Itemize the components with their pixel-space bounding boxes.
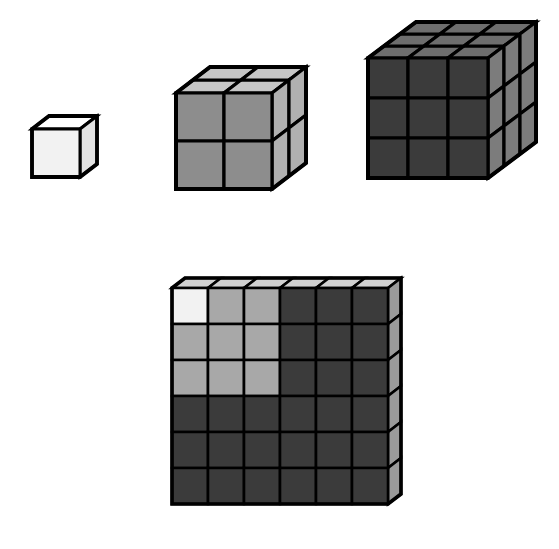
slab-front-cell-3-3: [280, 396, 316, 432]
slab-front-cell-4-3: [280, 432, 316, 468]
cube-3x3x3: [368, 22, 536, 178]
cube-3x3x3-front-cell-0-2: [448, 58, 488, 98]
slab-front-cell-2-0: [172, 360, 208, 396]
slab-front-cell-3-2: [244, 396, 280, 432]
cube-2x2x2-front-cell-1-1: [224, 141, 272, 189]
slab-front-cell-5-5: [352, 468, 388, 504]
slab-front-cell-0-2: [244, 288, 280, 324]
slab-front-cell-4-0: [172, 432, 208, 468]
slab-front-cell-4-4: [316, 432, 352, 468]
cube-1x1x1-front-cell-0-0: [32, 129, 80, 177]
slab-6x6: [172, 278, 401, 504]
cube-3x3x3-front-cell-1-0: [368, 98, 408, 138]
slab-front-cell-2-1: [208, 360, 244, 396]
slab-front-cell-0-0: [172, 288, 208, 324]
sum-of-cubes-figure: [0, 0, 559, 549]
cube-1x1x1: [32, 116, 97, 177]
slab-front-cell-1-3: [280, 324, 316, 360]
slab-front-cell-3-1: [208, 396, 244, 432]
cube-2x2x2: [176, 67, 306, 189]
cube-2x2x2-front-cell-1-0: [176, 141, 224, 189]
slab-front-cell-1-0: [172, 324, 208, 360]
slab-front-cell-0-5: [352, 288, 388, 324]
slab-front-cell-1-1: [208, 324, 244, 360]
slab-front-cell-5-4: [316, 468, 352, 504]
slab-front-cell-0-4: [316, 288, 352, 324]
cube-3x3x3-front-cell-2-2: [448, 138, 488, 178]
slab-front-cell-3-4: [316, 396, 352, 432]
slab-front-cell-2-3: [280, 360, 316, 396]
cube-3x3x3-front-cell-1-1: [408, 98, 448, 138]
slab-front-cell-4-2: [244, 432, 280, 468]
slab-front-cell-5-3: [280, 468, 316, 504]
slab-front-cell-2-4: [316, 360, 352, 396]
slab-front-cell-5-2: [244, 468, 280, 504]
slab-front-cell-0-3: [280, 288, 316, 324]
slab-front-cell-3-0: [172, 396, 208, 432]
slab-front-cell-2-2: [244, 360, 280, 396]
cube-2x2x2-front-cell-0-1: [224, 93, 272, 141]
diagram-canvas: [0, 0, 559, 549]
slab-front-cell-1-5: [352, 324, 388, 360]
cube-3x3x3-front-cell-0-0: [368, 58, 408, 98]
slab-front-cell-1-2: [244, 324, 280, 360]
slab-front-cell-4-1: [208, 432, 244, 468]
slab-front-cell-3-5: [352, 396, 388, 432]
cube-2x2x2-front-cell-0-0: [176, 93, 224, 141]
slab-front-cell-1-4: [316, 324, 352, 360]
cube-3x3x3-front-cell-2-1: [408, 138, 448, 178]
cube-3x3x3-front-cell-0-1: [408, 58, 448, 98]
slab-front-cell-0-1: [208, 288, 244, 324]
slab-front-cell-2-5: [352, 360, 388, 396]
cube-3x3x3-front-cell-1-2: [448, 98, 488, 138]
slab-front-cell-5-1: [208, 468, 244, 504]
slab-front-cell-5-0: [172, 468, 208, 504]
cube-3x3x3-front-cell-2-0: [368, 138, 408, 178]
slab-front-cell-4-5: [352, 432, 388, 468]
